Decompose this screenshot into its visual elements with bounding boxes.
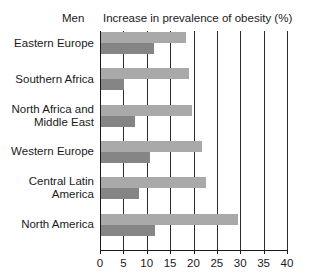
bar xyxy=(101,225,155,236)
category-label: North America xyxy=(0,218,94,231)
gridline xyxy=(264,31,265,250)
x-tick-mark xyxy=(287,250,288,254)
category-label: North Africa andMiddle East xyxy=(0,103,94,129)
category-label: Western Europe xyxy=(0,145,94,158)
bar xyxy=(101,68,189,79)
x-tick-label: 0 xyxy=(89,257,111,269)
x-tick-label: 15 xyxy=(159,257,181,269)
bar xyxy=(101,188,139,199)
bar xyxy=(101,141,202,152)
x-tick-mark xyxy=(194,250,195,254)
plot-area xyxy=(100,31,287,250)
x-tick-label: 20 xyxy=(183,257,205,269)
gridline xyxy=(240,31,241,250)
bar xyxy=(101,32,186,43)
category-label: Eastern Europe xyxy=(0,37,94,50)
bar xyxy=(101,214,238,225)
bar xyxy=(101,43,154,54)
x-tick-mark xyxy=(264,250,265,254)
gridline xyxy=(287,31,288,250)
x-tick-mark xyxy=(170,250,171,254)
x-tick-label: 40 xyxy=(276,257,298,269)
category-label: Central LatinAmerica xyxy=(0,175,94,201)
x-tick-label: 30 xyxy=(229,257,251,269)
obesity-prevalence-chart: Men Increase in prevalence of obesity (%… xyxy=(0,0,311,280)
x-tick-mark xyxy=(217,250,218,254)
x-tick-label: 10 xyxy=(136,257,158,269)
x-tick-label: 35 xyxy=(253,257,275,269)
bar xyxy=(101,177,206,188)
x-tick-label: 5 xyxy=(112,257,134,269)
x-tick-mark xyxy=(147,250,148,254)
x-tick-label: 25 xyxy=(206,257,228,269)
x-tick-mark xyxy=(100,250,101,254)
x-tick-mark xyxy=(123,250,124,254)
series-title: Men xyxy=(62,12,84,24)
bar xyxy=(101,152,150,163)
bar xyxy=(101,116,135,127)
bar xyxy=(101,105,192,116)
page-title: Increase in prevalence of obesity (%) xyxy=(103,12,292,24)
x-tick-mark xyxy=(240,250,241,254)
bar xyxy=(101,79,124,90)
category-label: Southern Africa xyxy=(0,73,94,86)
chart-header: Men Increase in prevalence of obesity (%… xyxy=(0,12,311,28)
